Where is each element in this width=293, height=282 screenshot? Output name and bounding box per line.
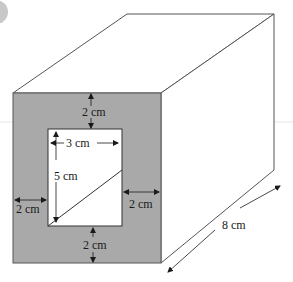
top-border-label: 2 cm — [82, 105, 106, 119]
depth-label: 8 cm — [222, 218, 246, 232]
right-border-label: 2 cm — [129, 197, 153, 211]
hole-width-label: 3 cm — [66, 136, 90, 150]
left-border-label: 2 cm — [16, 202, 40, 216]
corner-badge — [0, 0, 8, 24]
hole-height-label: 5 cm — [54, 169, 78, 183]
bottom-border-label: 2 cm — [83, 238, 107, 252]
cuboid-diagram: 2 cm 3 cm 5 cm 2 cm 2 cm 2 cm 8 cm — [0, 0, 293, 282]
